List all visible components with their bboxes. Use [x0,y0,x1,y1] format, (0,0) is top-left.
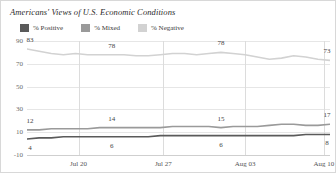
y-tick-label: 50 [16,83,23,91]
y-tick-label: 90 [16,37,23,45]
legend-swatch-mixed [81,24,90,32]
x-tick-label: Jul 27 [155,160,172,168]
data-point-label: 8 [325,139,329,147]
legend-label-negative: % Negative [151,24,184,32]
data-point-label: 15 [217,115,224,123]
legend-item-positive[interactable]: % Positive [20,24,63,32]
y-tick-label: 30 [16,105,23,113]
data-point-label: 78 [217,39,224,47]
legend-label-positive: % Positive [33,24,63,32]
legend-swatch-negative [138,24,147,32]
x-tick-label: Jul 20 [70,160,87,168]
line-series [27,49,330,60]
x-tick-label: Aug 03 [235,160,256,168]
data-point-label: 78 [108,42,115,50]
data-point-label: 4 [28,144,32,152]
data-point-label: 73 [324,47,331,55]
data-point-label: 83 [27,36,34,44]
legend-swatch-positive [20,24,29,32]
y-tick-label: 70 [16,60,23,68]
x-axis-baseline [27,155,330,156]
y-tick-label: -10 [14,151,23,159]
data-point-label: 17 [324,111,331,119]
legend-item-mixed[interactable]: % Mixed [81,24,120,32]
chart-card: Americans' Views of U.S. Economic Condit… [0,0,336,173]
chart-title: Americans' Views of U.S. Economic Condit… [10,7,175,17]
data-point-label: 6 [219,141,223,149]
series-lines [27,41,330,155]
legend-item-negative[interactable]: % Negative [138,24,184,32]
data-point-label: 12 [27,117,34,125]
legend-label-mixed: % Mixed [94,24,120,32]
chart-legend: % Positive % Mixed % Negative [20,24,184,32]
data-point-label: 6 [110,142,114,150]
x-tick-label: Aug 10 [314,160,335,168]
plot-area: 9070503010-10 Jul 20Jul 27Aug 03Aug 10 8… [27,41,330,155]
line-series [27,134,330,139]
y-tick-label: 10 [16,128,23,136]
line-series [27,124,330,130]
data-point-label: 14 [108,115,115,123]
